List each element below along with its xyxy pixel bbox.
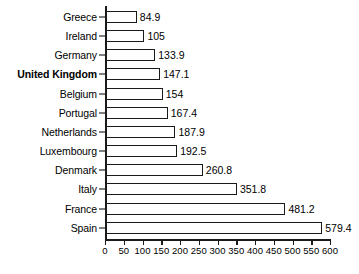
x-axis-tick-label: 400	[247, 246, 263, 256]
category-label: United Kingdom	[17, 69, 97, 80]
category-label: Italy	[78, 184, 97, 195]
x-axis-tick-label: 50	[118, 246, 129, 256]
category-label: Portugal	[59, 108, 97, 119]
horizontal-bar-chart: Greece84.9Ireland105Germany133.9United K…	[0, 0, 359, 274]
bar-row: Denmark260.8	[0, 161, 359, 180]
bar	[105, 145, 177, 157]
x-axis-tick-label: 350	[228, 246, 244, 256]
x-axis-tick-label: 600	[322, 246, 338, 256]
bar-value-label: 167.4	[168, 108, 197, 119]
bar	[105, 49, 155, 61]
category-label: Denmark	[55, 165, 97, 176]
bar	[105, 30, 144, 42]
bar	[105, 183, 237, 195]
bar-value-label: 351.8	[237, 184, 266, 195]
category-label: Belgium	[60, 88, 97, 99]
bar-value-label: 187.9	[175, 127, 204, 138]
bar-value-label: 105	[144, 31, 165, 42]
x-axis-tick-label: 200	[172, 246, 188, 256]
bar-row: Italy351.8	[0, 180, 359, 199]
bar-value-label: 84.9	[137, 12, 160, 23]
bar	[105, 11, 137, 23]
bar-row: Ireland105	[0, 27, 359, 46]
category-label: Greece	[63, 12, 97, 23]
bar-row: France481.2	[0, 199, 359, 218]
bar-value-label: 481.2	[285, 203, 314, 214]
bar-row: Luxembourg192.5	[0, 142, 359, 161]
bar-row: Portugal167.4	[0, 103, 359, 122]
bar-value-label: 579.4	[322, 222, 351, 233]
x-axis-tick-label: 250	[191, 246, 207, 256]
category-label: Luxembourg	[40, 146, 97, 157]
bar-value-label: 192.5	[177, 146, 206, 157]
category-label: France	[65, 203, 97, 214]
y-axis-line	[105, 6, 107, 240]
bar	[105, 203, 285, 215]
bar-row: Belgium154	[0, 84, 359, 103]
bar-value-label: 147.1	[160, 69, 189, 80]
category-label: Netherlands	[41, 127, 97, 138]
bar-row: United Kingdom147.1	[0, 65, 359, 84]
bar	[105, 126, 175, 138]
x-axis-tick-label: 500	[285, 246, 301, 256]
bar-value-label: 260.8	[203, 165, 232, 176]
x-axis-tick-label: 100	[135, 246, 151, 256]
bar-value-label: 154	[163, 88, 184, 99]
bar-row: Spain579.4	[0, 218, 359, 237]
bar-row: Germany133.9	[0, 46, 359, 65]
x-axis-tick-label: 550	[303, 246, 319, 256]
category-label: Ireland	[66, 31, 97, 42]
bar	[105, 68, 160, 80]
x-axis-tick-label: 0	[102, 246, 107, 256]
bar-row: Netherlands187.9	[0, 122, 359, 141]
bar	[105, 164, 203, 176]
bar	[105, 107, 168, 119]
x-axis-tick-label: 450	[266, 246, 282, 256]
bar-value-label: 133.9	[155, 50, 184, 61]
bar	[105, 88, 163, 100]
x-axis-tick-label: 300	[210, 246, 226, 256]
bar	[105, 222, 322, 234]
x-axis-tick-label: 150	[153, 246, 169, 256]
bar-rows: Greece84.9Ireland105Germany133.9United K…	[0, 0, 359, 240]
bar-row: Greece84.9	[0, 8, 359, 27]
category-label: Spain	[71, 222, 97, 233]
category-label: Germany	[55, 50, 97, 61]
